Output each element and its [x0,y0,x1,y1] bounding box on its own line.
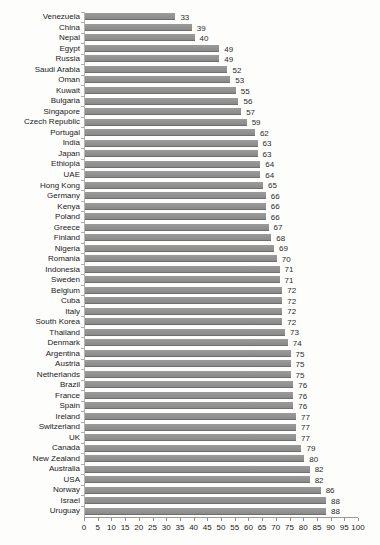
value-label: 39 [197,24,206,33]
country-label: Nigeria [0,244,84,254]
value-label: 88 [331,507,340,516]
value-label: 66 [271,213,280,222]
country-label: Poland [0,212,84,222]
bar-track: 79 [84,443,359,454]
bar-track: 52 [84,65,359,76]
country-label: Ethiopia [0,159,84,169]
country-label: China [0,23,84,33]
bar [85,424,296,431]
country-label: Saudi Arabia [0,65,84,75]
value-label: 75 [296,360,305,369]
bar [85,129,255,136]
country-label: Argentina [0,349,84,359]
bar-track: 62 [84,128,359,139]
x-axis-tick [344,518,345,521]
value-label: 75 [296,350,305,359]
bar-row: Austria 75 [0,359,380,370]
x-axis-tick-label: 55 [230,523,239,532]
value-label: 53 [235,76,244,85]
bar [85,329,285,336]
bar-track: 66 [84,212,359,223]
bar-row: Belgium 72 [0,285,380,296]
bar [85,381,293,388]
bar-track: 82 [84,464,359,475]
bar-row: Greece 67 [0,222,380,233]
country-label: UAE [0,170,84,180]
country-label: Switzerland [0,422,84,432]
bar-track: 66 [84,191,359,202]
value-label: 82 [315,476,324,485]
country-label: Ireland [0,412,84,422]
x-axis-tick-label: 10 [107,523,116,532]
value-label: 40 [200,34,209,43]
x-axis-tick-label: 60 [244,523,253,532]
country-label: Norway [0,485,84,495]
bar [85,45,219,52]
bar-track: 76 [84,401,359,412]
bar [85,402,293,409]
value-label: 66 [271,202,280,211]
bar-row: Nigeria 69 [0,243,380,254]
value-label: 79 [306,444,315,453]
bar [85,13,175,20]
country-label: Canada [0,443,84,453]
bar-row: Russia 49 [0,54,380,65]
bar [85,24,192,31]
bar-row: Brazil 76 [0,380,380,391]
bar-track: 68 [84,233,359,244]
bar-row: Hong Kong 65 [0,180,380,191]
x-axis-tick-label: 100 [351,523,364,532]
bar-row: Egypt 49 [0,44,380,55]
bar-row: Israel 88 [0,496,380,507]
bar-row: Italy 72 [0,306,380,317]
bar-track: 66 [84,201,359,212]
value-label: 56 [243,97,252,106]
bar-track: 77 [84,422,359,433]
x-axis-tick [248,518,249,521]
x-axis-tick [331,518,332,521]
value-label: 77 [301,434,310,443]
bar-track: 72 [84,285,359,296]
bar [85,213,266,220]
x-axis-tick [276,518,277,521]
value-label: 73 [290,328,299,337]
bar-row: China 39 [0,23,380,34]
x-axis-tick-label: 25 [148,523,157,532]
value-label: 76 [298,402,307,411]
x-axis-tick [180,518,181,521]
x-axis-tick [262,518,263,521]
bar-track: 57 [84,107,359,118]
bar [85,182,263,189]
bar-track: 72 [84,296,359,307]
country-label: USA [0,475,84,485]
bar-row: Czech Republic 59 [0,117,380,128]
value-label: 55 [241,87,250,96]
bar-chart: Venezuela 33 China 39 Nepal 40 Egypt 49 … [0,12,380,517]
bar-row: Sweden 71 [0,275,380,286]
bar-row: France 76 [0,391,380,402]
bar [85,255,277,262]
bar [85,297,282,304]
x-axis-tick [235,518,236,521]
bar [85,360,291,367]
bar-row: South Korea 72 [0,317,380,328]
bar [85,234,271,241]
country-label: Belgium [0,286,84,296]
x-axis-tick-label: 30 [162,523,171,532]
country-label: Cuba [0,296,84,306]
country-label: Germany [0,191,84,201]
country-label: Brazil [0,380,84,390]
bar [85,87,236,94]
bar-track: 75 [84,359,359,370]
bar-track: 77 [84,433,359,444]
bar-track: 53 [84,75,359,86]
value-label: 80 [309,455,318,464]
x-axis-tick [166,518,167,521]
bar [85,445,301,452]
bar-track: 33 [84,12,359,23]
bar-row: UAE 64 [0,170,380,181]
bar-row: Denmark 74 [0,338,380,349]
value-label: 64 [265,160,274,169]
bar-track: 72 [84,306,359,317]
bar-row: Norway 86 [0,485,380,496]
